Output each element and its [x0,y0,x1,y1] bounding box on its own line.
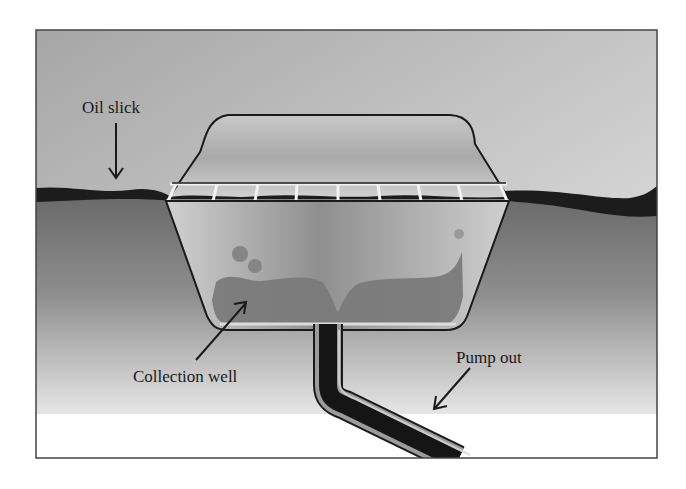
oil-blob [454,229,464,239]
oil-blob [248,259,262,273]
label-pump-out: Pump out [456,348,522,367]
oil-blob [232,246,248,262]
oil-skimmer-diagram: Oil slick Collection well Pump out [0,0,686,489]
label-collection-well: Collection well [133,367,238,386]
label-oil-slick: Oil slick [82,98,141,117]
